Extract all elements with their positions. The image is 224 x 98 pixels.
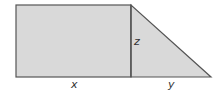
label-y: y <box>167 78 175 91</box>
label-z: z <box>133 35 140 48</box>
triangle-region <box>131 5 211 77</box>
label-x: x <box>70 78 78 91</box>
composite-shape-diagram: x y z <box>0 0 224 98</box>
rectangle-region <box>16 5 131 77</box>
